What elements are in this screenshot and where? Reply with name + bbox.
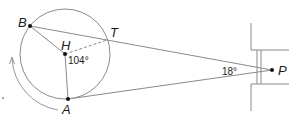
geometry-diagram: B H T A P 104° 18° [0, 0, 289, 120]
angle-label-18: 18° [222, 66, 237, 77]
label-T: T [110, 25, 119, 40]
wall-top [251, 23, 289, 50]
label-A: A [61, 102, 71, 117]
point-P [270, 68, 274, 72]
wall-bottom [251, 84, 289, 111]
segment-HT-dashed [65, 40, 107, 54]
segment-HB [30, 26, 65, 54]
angle-label-104: 104° [68, 55, 89, 66]
point-A [66, 97, 70, 101]
rotation-arrow-arc [12, 59, 58, 110]
stray-dot [2, 97, 4, 99]
label-B: B [18, 15, 27, 30]
label-H: H [61, 38, 71, 53]
label-P: P [278, 63, 287, 78]
point-B [28, 24, 32, 28]
